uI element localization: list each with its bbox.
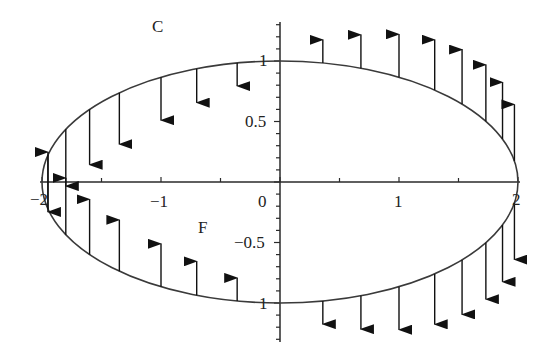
y-tick-label-neg1: 1 bbox=[259, 294, 268, 313]
field-label-f: F bbox=[198, 218, 207, 237]
x-tick-label-0: 0 bbox=[258, 192, 267, 211]
y-tick-label-1: 1 bbox=[259, 51, 268, 70]
ellipse-vector-field-diagram: −2 −1 0 1 2 1 0.5 −0.5 1 C F bbox=[0, 0, 550, 356]
x-tick-label-neg2: −2 bbox=[30, 190, 48, 209]
y-tick-label-0.5: 0.5 bbox=[245, 112, 266, 131]
y-tick-label-neg0.5: −0.5 bbox=[234, 233, 265, 252]
x-tick-label-neg1: −1 bbox=[150, 192, 168, 211]
x-tick-label-2: 2 bbox=[512, 190, 521, 209]
curve-label-c: C bbox=[152, 17, 163, 36]
x-tick-label-1: 1 bbox=[394, 192, 403, 211]
